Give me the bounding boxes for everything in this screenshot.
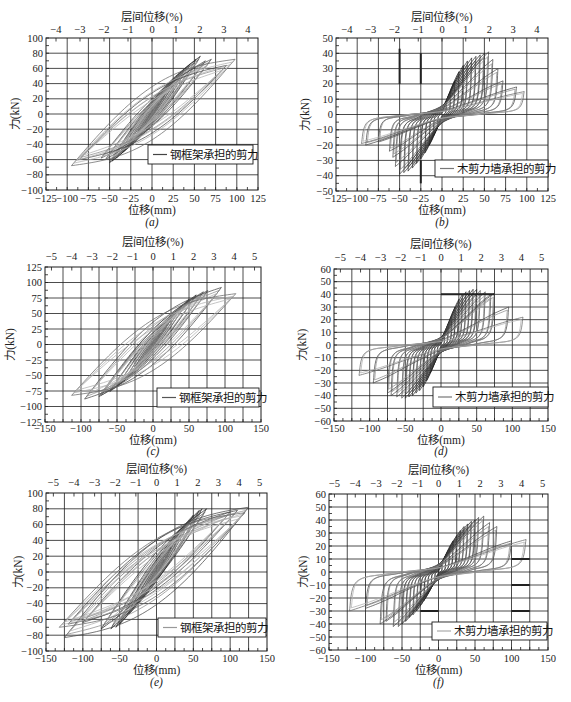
x-axis-tick-label: −25 [413,193,429,204]
x-axis-tick-label: 25 [458,193,469,204]
x-axis-tick-label: 150 [259,653,275,664]
y-axis-tick-label: −20 [27,582,43,593]
top-axis-tick-label: 2 [197,24,202,35]
legend-label: 钢框架承担的剪力 [179,391,267,404]
top-axis-tick-label: 3 [216,477,221,488]
figure: −4−3−2−101234−125−100−75−50−250255075100… [0,0,571,702]
top-axis-tick-label: 1 [463,24,468,35]
legend: 钢框架承担的剪力 [148,145,258,164]
y-axis-tick-label: −125 [20,417,42,428]
x-axis-tick-label: 125 [540,193,556,204]
y-axis-tick-label: 75 [32,293,43,304]
y-axis-tick-label: −30 [317,155,333,166]
x-axis-tick-label: 50 [188,653,199,664]
x-axis-title: 位移(mm) [128,203,176,217]
x-axis-tick-label: −50 [394,653,410,664]
y-axis-tick-label: 0 [321,567,326,578]
top-axis-tick-label: −3 [365,24,376,35]
legend-label: 木剪力墙承担的剪力 [455,390,554,403]
y-axis-title: 力(kN) [12,555,25,588]
y-axis-tick-label: −80 [27,630,43,641]
top-axis-tick-label: 3 [211,251,216,262]
y-axis-tick-label: 60 [33,63,44,74]
top-axis-tick-label: 1 [458,252,463,263]
top-axis-tick-label: −3 [370,478,381,489]
y-axis-title: 力(kN) [299,98,312,131]
y-axis-tick-label: 0 [37,339,42,350]
y-axis-tick-label: 25 [32,324,43,335]
x-axis-tick-label: −100 [346,193,368,204]
x-axis-tick-label: 150 [540,653,556,664]
y-axis-tick-label: −10 [315,352,331,363]
x-axis-tick-label: −100 [70,423,92,434]
top-axis-title: 层间位移(%) [122,235,183,249]
x-axis-tick-label: −25 [123,193,139,204]
top-axis-tick-label: −3 [87,251,98,262]
x-axis-tick-label: 125 [250,193,266,204]
y-axis-tick-label: −40 [317,170,333,181]
x-axis-tick-label: 0 [436,653,441,664]
y-axis-tick-label: −40 [27,598,43,609]
y-axis-tick-label: 50 [321,276,332,287]
y-axis-tick-label: −40 [27,139,43,150]
x-axis-tick-label: −50 [391,193,407,204]
y-axis-tick-label: −10 [317,124,333,135]
y-axis-tick-label: 40 [321,289,332,300]
x-axis-tick-label: 75 [500,193,511,204]
top-axis-tick-label: 1 [175,477,180,488]
x-axis-tick-label: 50 [479,193,490,204]
top-axis-title: 层间位移(%) [408,463,469,477]
y-axis-tick-label: −50 [315,403,331,414]
top-axis-tick-label: −2 [98,24,109,35]
top-axis-tick-label: 2 [477,478,482,489]
panel-caption: (d) [434,445,448,458]
x-axis-title: 位移(mm) [133,663,181,677]
y-axis-tick-label: 0 [326,340,331,351]
y-axis-tick-label: 20 [321,314,332,325]
top-axis-tick-label: −1 [415,252,426,263]
top-axis-tick-label: 1 [171,251,176,262]
y-axis-tick-label: −75 [26,386,42,397]
y-axis-title: 力(kN) [9,97,22,130]
y-axis-tick-label: 30 [321,302,332,313]
top-axis-tick-label: 5 [539,252,544,263]
y-axis-tick-label: 40 [323,48,334,59]
y-axis-tick-label: 10 [323,94,334,105]
x-axis-tick-label: 0 [154,653,159,664]
panel-caption: (e) [150,676,163,689]
y-axis-tick-label: 60 [33,519,44,530]
panel-caption: (b) [435,216,449,229]
y-axis-tick-label: −25 [26,355,42,366]
x-axis-tick-label: 50 [184,423,195,434]
top-axis-tick-label: −1 [130,477,141,488]
top-axis-tick-label: 2 [479,252,484,263]
top-axis-tick-label: 5 [252,251,257,262]
y-axis-tick-label: 80 [33,503,44,514]
y-axis-tick-label: −30 [310,606,326,617]
x-axis-tick-label: 100 [222,653,238,664]
top-axis-tick-label: 0 [154,477,159,488]
top-axis-tick-label: −2 [391,478,402,489]
y-axis-tick-label: −20 [317,140,333,151]
top-axis-tick-label: 0 [150,251,155,262]
x-axis-tick-label: 50 [470,653,481,664]
x-axis-tick-label: 150 [540,423,556,434]
top-axis-tick-label: 0 [436,478,441,489]
y-axis-tick-label: −100 [21,185,43,196]
x-axis-tick-label: 50 [471,423,482,434]
legend-label: 木剪力墙承担的剪力 [457,162,556,175]
top-axis-tick-label: −5 [48,477,59,488]
y-axis-tick-label: −60 [27,614,43,625]
y-axis-tick-label: 60 [316,489,327,500]
top-axis-tick-label: −5 [329,478,340,489]
legend: 木剪力墙承担的剪力 [433,387,554,407]
y-axis-tick-label: 60 [321,264,332,275]
top-axis-tick-label: 2 [487,24,492,35]
top-axis-tick-label: −4 [341,24,353,35]
x-axis-tick-label: −50 [397,423,413,434]
x-axis-tick-label: −100 [355,653,377,664]
y-axis-tick-label: 30 [323,63,334,74]
top-axis-tick-label: 3 [511,24,516,35]
x-axis-tick-label: −100 [359,423,381,434]
top-axis-tick-label: −2 [107,251,118,262]
